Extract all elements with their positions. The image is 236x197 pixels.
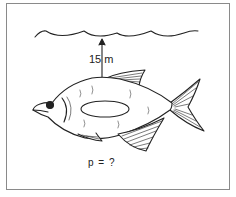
- water-surface-line: [35, 31, 198, 37]
- fish: [33, 70, 204, 151]
- fish-eye: [47, 102, 54, 109]
- pressure-question-label: p = ?: [88, 157, 116, 168]
- fish-pressure-diagram: [0, 0, 236, 197]
- tail-fin: [170, 79, 204, 131]
- depth-label: 15 m: [89, 53, 113, 65]
